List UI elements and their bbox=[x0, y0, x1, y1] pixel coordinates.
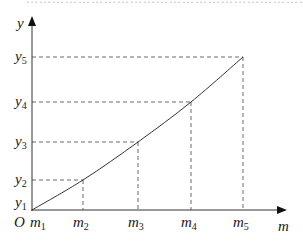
x-axis-label: m bbox=[278, 218, 289, 234]
axes bbox=[31, 24, 280, 211]
x-tick-label-5: m5 bbox=[233, 214, 249, 232]
y-tick-labels: y1y2y3y4y5 bbox=[13, 48, 27, 212]
y-axis-label: y bbox=[15, 15, 24, 31]
x-tick-label-4: m4 bbox=[181, 214, 197, 232]
x-axis-arrow-icon bbox=[277, 206, 287, 214]
y-tick-label-4: y4 bbox=[13, 93, 27, 111]
x-tick-labels: m1m2m3m4m5 bbox=[30, 214, 249, 232]
y-axis-arrow-icon bbox=[28, 16, 36, 26]
x-tick-label-1: m1 bbox=[30, 214, 46, 232]
dashed-guides bbox=[32, 57, 243, 210]
origin-label: O bbox=[14, 214, 25, 230]
mass-vs-y-diagram: y m O y1y2y3y4y5 m1m2m3m4m5 bbox=[0, 0, 303, 243]
y-tick-label-2: y2 bbox=[13, 171, 27, 189]
y-tick-label-5: y5 bbox=[13, 48, 27, 66]
x-tick-label-2: m2 bbox=[73, 214, 89, 232]
data-curve bbox=[32, 57, 243, 210]
x-tick-label-3: m3 bbox=[128, 214, 144, 232]
y-tick-label-3: y3 bbox=[13, 133, 27, 151]
y-tick-label-1: y1 bbox=[13, 194, 27, 212]
